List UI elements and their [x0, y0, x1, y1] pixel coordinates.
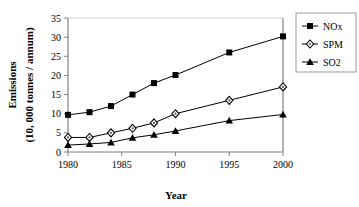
y-tick-label: 0	[56, 147, 61, 158]
y-tick-label: 30	[51, 32, 61, 43]
x-tick-label: 2000	[273, 159, 293, 170]
legend-marker	[307, 23, 313, 29]
x-tick-label: 1990	[166, 159, 186, 170]
chart-legend: NOxSPMSO2	[296, 13, 356, 72]
data-point-marker-center	[88, 136, 90, 138]
data-point-marker	[87, 109, 93, 115]
data-point-marker-center	[110, 132, 112, 134]
data-point-marker-center	[67, 136, 69, 138]
data-point-marker	[130, 92, 136, 98]
data-point-marker-center	[174, 113, 176, 115]
data-point-marker	[173, 72, 179, 78]
x-axis-title: Year	[165, 189, 187, 201]
data-point-marker-center	[282, 86, 284, 88]
legend-label: SO2	[323, 57, 341, 68]
emissions-line-chart: 05101520253035 19801985199019952000 Emis…	[0, 0, 359, 207]
legend-label: SPM	[323, 39, 343, 50]
data-point-marker-center	[131, 127, 133, 129]
data-point-marker	[226, 49, 232, 55]
x-tick-label: 1985	[112, 159, 132, 170]
y-axis-title-line2: (10, 000 tonnes / annum)	[23, 27, 36, 143]
y-axis-title-line1: Emissions	[6, 61, 18, 109]
y-tick-label: 10	[51, 108, 61, 119]
chart-canvas: 05101520253035 19801985199019952000 Emis…	[0, 0, 359, 207]
x-tick-label: 1980	[58, 159, 78, 170]
y-tick-label: 20	[51, 70, 61, 81]
data-point-marker	[151, 80, 157, 86]
y-tick-label: 15	[51, 89, 61, 100]
y-tick-label: 5	[56, 127, 61, 138]
y-tick-label: 35	[51, 13, 61, 24]
y-tick-label: 25	[51, 51, 61, 62]
data-point-marker	[65, 112, 71, 118]
data-point-marker-center	[153, 122, 155, 124]
legend-marker-center	[309, 43, 311, 45]
data-point-marker	[280, 33, 286, 39]
data-point-marker	[108, 103, 114, 109]
legend-label: NOx	[323, 21, 342, 32]
x-tick-label: 1995	[219, 159, 239, 170]
data-point-marker-center	[228, 99, 230, 101]
